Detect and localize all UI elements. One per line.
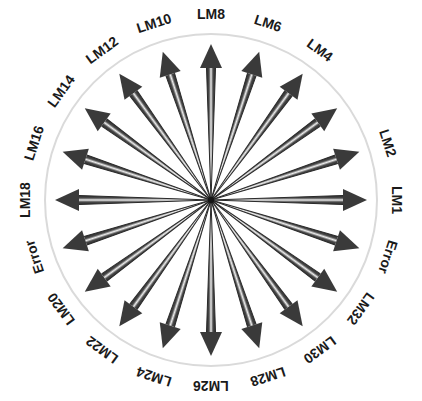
- arrow-shaft: [79, 196, 211, 205]
- arrow-head: [333, 141, 363, 169]
- arrow-shaft: [207, 200, 216, 332]
- arrow-head: [241, 322, 269, 352]
- arrow-head: [152, 322, 180, 352]
- arrow-head: [152, 48, 180, 78]
- arrow-head: [200, 44, 222, 68]
- center-hub: [208, 197, 214, 203]
- arrow-head: [333, 230, 363, 258]
- arrow-head: [59, 141, 89, 169]
- radial-arrow-diagram: LM1LM2LM4LM6LM8LM10LM12LM14LM16LM18Error…: [0, 0, 422, 401]
- spoke-label-lm1: LM1: [390, 186, 404, 214]
- spoke-label-lm8: LM8: [197, 7, 225, 21]
- radial-diagram-canvas: [0, 0, 422, 401]
- arrow-shaft: [207, 68, 216, 200]
- arrow-head: [55, 189, 79, 211]
- arrow-shaft: [211, 196, 343, 205]
- arrow-head: [241, 48, 269, 78]
- arrow-head: [343, 189, 367, 211]
- arrow-head: [59, 230, 89, 258]
- spoke-label-lm18: LM18: [18, 182, 32, 218]
- spoke-label-lm26: LM26: [193, 379, 229, 393]
- arrow-head: [200, 332, 222, 356]
